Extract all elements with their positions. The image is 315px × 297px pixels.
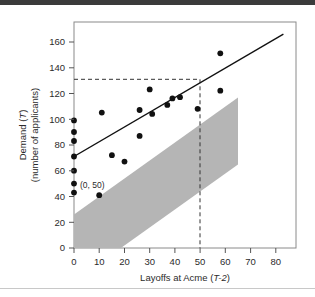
data-point: [109, 152, 115, 158]
x-tick-label: 70: [245, 256, 256, 267]
x-axis-title: Layoffs at Acme (T-2): [140, 272, 230, 283]
y-axis-ticks: [69, 42, 74, 248]
x-axis-ticks: [74, 248, 276, 253]
data-point: [71, 181, 77, 187]
x-tick-label: 60: [220, 256, 231, 267]
y-axis-title-main: Demand (: [17, 118, 28, 161]
x-axis-tick-labels: 0 10 20 30 40 50 60 70 80: [71, 256, 281, 267]
data-point: [164, 102, 170, 108]
data-point: [71, 138, 77, 144]
x-tick-label: 30: [144, 256, 155, 267]
x-tick-label: 0: [71, 256, 76, 267]
x-tick-label: 80: [271, 256, 282, 267]
data-point: [170, 96, 176, 102]
data-point: [71, 118, 77, 124]
data-point: [177, 94, 183, 100]
x-tick-label: 20: [119, 256, 130, 267]
data-point: [71, 190, 77, 196]
x-tick-label: 40: [170, 256, 181, 267]
y-axis-tick-labels: 0 20 40 60 80 100 120 140 160: [49, 36, 65, 253]
y-tick-label: 120: [49, 88, 65, 99]
svg-text:Demand (T): Demand (T): [17, 110, 28, 161]
data-point: [71, 129, 77, 135]
y-tick-label: 140: [49, 62, 65, 73]
y-tick-label: 100: [49, 114, 65, 125]
x-tick-label: 10: [94, 256, 105, 267]
figure-container: 0 20 40 60 80 100 120 140 160 0 10 20: [0, 0, 315, 297]
y-axis-title: Demand (T) (number of applicants): [17, 88, 40, 183]
data-point: [195, 106, 201, 112]
data-point: [149, 111, 155, 117]
x-axis-title-italic: T-2: [213, 272, 227, 283]
data-point: [137, 133, 143, 139]
data-point: [217, 88, 223, 94]
x-tick-label: 50: [195, 256, 206, 267]
y-tick-label: 80: [54, 139, 65, 150]
y-tick-label: 20: [54, 217, 65, 228]
data-point: [71, 154, 77, 160]
data-point: [99, 110, 105, 116]
x-axis-title-main: Layoffs at Acme (: [140, 272, 214, 283]
data-point: [147, 87, 153, 93]
y-axis-subtitle: (number of applicants): [29, 88, 40, 183]
data-point: [96, 192, 102, 198]
annotation-label: (0, 50): [80, 180, 105, 190]
data-point: [217, 50, 223, 56]
y-tick-label: 40: [54, 191, 65, 202]
y-axis-title-tail: ): [17, 110, 28, 113]
svg-text:Layoffs at Acme (T-2): Layoffs at Acme (T-2): [140, 272, 230, 283]
y-tick-label: 160: [49, 36, 65, 47]
y-tick-label: 0: [60, 242, 65, 253]
data-point: [137, 107, 143, 113]
x-axis-title-tail: ): [227, 272, 230, 283]
scatter-chart: 0 20 40 60 80 100 120 140 160 0 10 20: [0, 0, 315, 297]
data-point: [122, 159, 128, 165]
y-tick-label: 60: [54, 165, 65, 176]
